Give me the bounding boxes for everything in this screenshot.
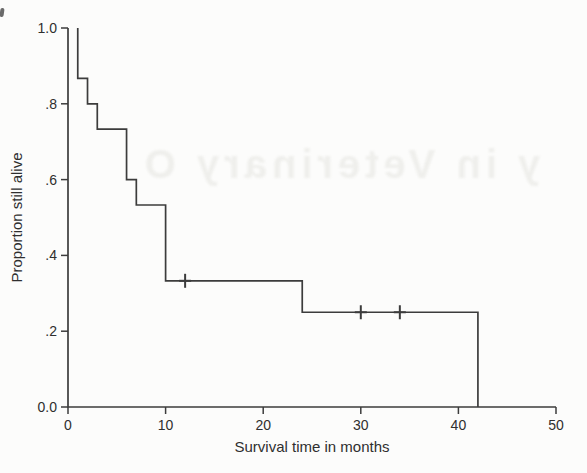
x-axis-tick-label: 40	[451, 417, 467, 433]
x-axis-tick-label: 30	[353, 417, 369, 433]
y-axis-tick-label: .4	[45, 247, 57, 263]
x-axis-tick-label: 10	[158, 417, 174, 433]
y-axis-title: Proportion still alive	[8, 152, 25, 282]
y-axis-tick-label: .2	[45, 323, 57, 339]
y-axis-tick-label: 0.0	[38, 399, 58, 415]
survival-curve-chart: 0.0.2.4.6.81.001020304050Survival time i…	[0, 0, 587, 473]
y-axis-tick-label: .8	[45, 96, 57, 112]
scanned-chart-page: y in Veterinary O 0.0.2.4.6.81.001020304…	[0, 0, 587, 473]
axes-frame	[68, 28, 556, 407]
y-axis-tick-label: 1.0	[38, 20, 58, 36]
x-axis-tick-label: 50	[548, 417, 564, 433]
x-axis-tick-label: 0	[64, 417, 72, 433]
x-axis-title: Survival time in months	[234, 438, 389, 455]
survival-step-curve	[78, 28, 478, 407]
y-axis-tick-label: .6	[45, 172, 57, 188]
x-axis-tick-label: 20	[255, 417, 271, 433]
